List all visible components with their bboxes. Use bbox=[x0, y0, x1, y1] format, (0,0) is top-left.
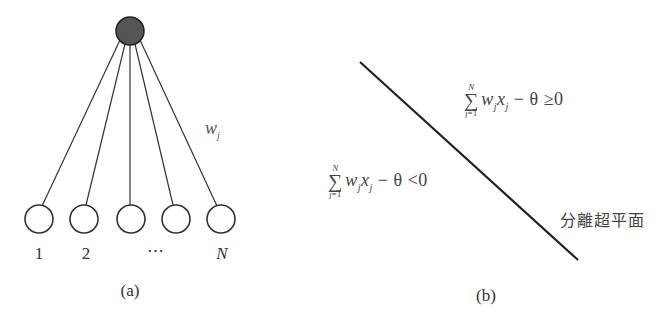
sum-lower-limit: j=1 bbox=[465, 109, 477, 118]
input-node-3 bbox=[117, 205, 145, 233]
summand: wjxj − θ ≥0 bbox=[481, 89, 563, 112]
sum-lower-limit: j=1 bbox=[329, 190, 341, 199]
x-symbol: x bbox=[497, 89, 506, 109]
minus-theta: − θ bbox=[509, 89, 544, 109]
relation-symbol: ≥ bbox=[544, 89, 554, 109]
rhs-value: 0 bbox=[554, 89, 564, 109]
edge-1 bbox=[42, 40, 120, 206]
summand: wjxj − θ <0 bbox=[345, 170, 428, 193]
hyperplane-label: 分離超平面 bbox=[560, 213, 645, 229]
summation: N ∑ j=1 bbox=[328, 164, 342, 199]
input-node-n bbox=[207, 205, 235, 233]
minus-theta: − θ bbox=[373, 170, 408, 190]
weight-label: wj bbox=[205, 119, 220, 141]
upper-region-formula: N ∑ j=1 wjxj − θ ≥0 bbox=[464, 83, 564, 118]
relation-symbol: < bbox=[408, 170, 419, 190]
output-neuron-node bbox=[116, 17, 144, 45]
caption-b: (b) bbox=[476, 287, 496, 304]
weight-symbol: w bbox=[205, 118, 217, 138]
edge-2 bbox=[86, 44, 125, 205]
input-nodes bbox=[25, 205, 235, 233]
weight-edges bbox=[42, 40, 217, 206]
sigma-symbol: ∑ bbox=[464, 92, 478, 109]
input-node-4 bbox=[162, 205, 190, 233]
input-node-2 bbox=[70, 205, 98, 233]
caption-a: (a) bbox=[121, 282, 140, 299]
sigma-symbol: ∑ bbox=[328, 173, 342, 190]
lower-region-formula: N ∑ j=1 wjxj − θ <0 bbox=[328, 164, 428, 199]
w-symbol: w bbox=[345, 170, 358, 190]
edge-4 bbox=[135, 44, 173, 205]
input-label-1: 1 bbox=[35, 245, 44, 262]
input-node-1 bbox=[25, 205, 53, 233]
input-ellipsis: ⋯ bbox=[147, 242, 164, 259]
w-symbol: w bbox=[481, 89, 494, 109]
input-label-2: 2 bbox=[82, 245, 91, 262]
x-symbol: x bbox=[361, 170, 370, 190]
diagram-canvas bbox=[0, 0, 668, 319]
rhs-value: 0 bbox=[418, 170, 428, 190]
weight-subscript: j bbox=[217, 130, 220, 141]
input-label-n: N bbox=[216, 245, 227, 262]
summation: N ∑ j=1 bbox=[464, 83, 478, 118]
